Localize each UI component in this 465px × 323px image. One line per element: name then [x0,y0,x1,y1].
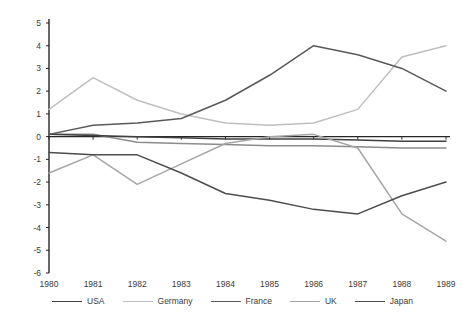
legend-line-swatch [123,301,153,302]
y-axis-tick-label: -5 [17,245,41,255]
y-axis-tick-label: -2 [17,177,41,187]
line-chart: 543210-1-2-3-4-5-6 198019811982198319841… [0,0,465,323]
x-axis-tick-label: 1985 [250,279,290,289]
y-axis-tick-label: -1 [17,154,41,164]
y-axis-tick-label: 5 [17,18,41,28]
chart-legend: USAGermanyFranceUKJapan [0,296,465,306]
x-axis-tick-label: 1983 [161,279,201,289]
legend-line-swatch [355,301,385,302]
legend-item-label: France [246,296,272,306]
y-axis-tick-label: -3 [17,200,41,210]
legend-line-swatch [211,301,241,302]
y-axis-tick-label: 4 [17,41,41,51]
x-axis-tick-label: 1989 [426,279,465,289]
legend-item-label: Japan [390,296,413,306]
legend-line-swatch [290,301,320,302]
legend-item-germany[interactable]: Germany [123,296,193,306]
series-line-germany [49,46,446,126]
x-axis-tick-label: 1981 [73,279,113,289]
y-axis-tick-label: 0 [17,132,41,142]
legend-item-uk[interactable]: UK [290,296,337,306]
plot-area [0,0,465,323]
legend-item-france[interactable]: France [211,296,272,306]
x-axis-tick-label: 1986 [294,279,334,289]
y-axis-tick-label: 2 [17,86,41,96]
series-line-japan [49,153,446,214]
x-axis-tick-label: 1984 [205,279,245,289]
y-axis-tick-label: 3 [17,63,41,73]
x-axis-tick-label: 1982 [117,279,157,289]
legend-line-swatch [52,301,82,302]
legend-item-label: Germany [158,296,193,306]
series-line-france [49,46,446,135]
axes [46,19,450,273]
legend-item-japan[interactable]: Japan [355,296,413,306]
y-axis-tick-label: -4 [17,223,41,233]
data-series-group [49,46,446,241]
x-axis-tick-label: 1988 [382,279,422,289]
x-axis-tick-label: 1980 [29,279,69,289]
y-axis-tick-label: -6 [17,268,41,278]
legend-item-usa[interactable]: USA [52,296,104,306]
x-axis-tick-label: 1987 [338,279,378,289]
series-line-uk [49,134,446,241]
legend-item-label: USA [87,296,104,306]
y-axis-tick-label: 1 [17,109,41,119]
legend-item-label: UK [325,296,337,306]
